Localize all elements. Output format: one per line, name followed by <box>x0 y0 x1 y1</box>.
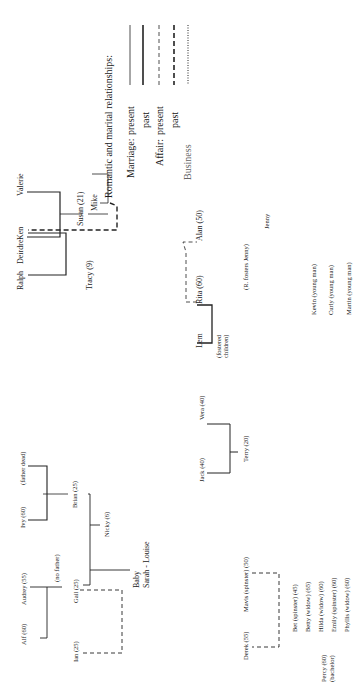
person-ken: Ken <box>17 227 25 240</box>
person-ivy: Ivy (60) <box>19 507 26 528</box>
person-brian: Brian (25) <box>71 481 78 508</box>
person-emily: Emily (spinster) (60) <box>330 577 337 632</box>
legend-marriage-group: Marriage: <box>126 139 136 178</box>
person-terry: Terry (20) <box>242 436 249 462</box>
person-sarah-louise: Sarah - Louise <box>143 541 151 588</box>
person-hilda: Hilda (widow) (60) <box>317 581 324 632</box>
person-curly: Curly (young man) <box>327 265 334 315</box>
note-bachelor: (bachelor) <box>328 655 335 682</box>
person-ralph: Ralph <box>17 271 25 290</box>
person-susan: Susan (21) <box>77 192 85 226</box>
person-valerie: Valerie <box>17 173 25 196</box>
person-betty: Betty (widow) (65) <box>304 582 311 632</box>
person-martin: Martin (young man) <box>345 262 352 315</box>
legend-affair-present: present <box>155 106 165 135</box>
person-alf: Alf (60) <box>20 624 27 645</box>
note-father-dead: (father dead) <box>19 452 26 485</box>
person-tracy: Tracy (9) <box>86 260 94 290</box>
person-ian: Ian (25) <box>72 641 79 662</box>
person-baby: Baby <box>133 571 141 588</box>
person-alan: Alan (50) <box>196 210 204 241</box>
person-mike: Mike <box>91 194 99 211</box>
person-percy: Percy (60) <box>320 655 327 682</box>
person-deirdre: Deirdre <box>17 240 25 264</box>
person-gail: Gail (25) <box>72 579 79 603</box>
person-bet: Bet (spinster) (45) <box>291 584 298 632</box>
legend-business: Business <box>183 144 193 180</box>
legend-marriage-present: present <box>126 106 136 135</box>
note-r-fosters-jenny: (R. fosters Jenny) <box>242 244 249 290</box>
legend-affair-past: past <box>170 112 180 128</box>
legend-marriage-past: past <box>141 112 151 128</box>
person-audrey: Audrey (55) <box>20 573 27 605</box>
person-lem: Lem <box>196 333 204 348</box>
person-derek: Derek (55) <box>242 632 249 660</box>
person-phyllis: Phyllis (widow) (60) <box>343 578 350 632</box>
legend-lines <box>130 25 188 85</box>
note-no-father: (no father) <box>53 554 60 582</box>
note-fostered-children: (fostered children) <box>215 328 229 358</box>
person-nicky: Nicky (6) <box>103 512 110 537</box>
person-kevin: Kevin (young man) <box>310 264 317 315</box>
person-vera: Vera (40) <box>198 396 205 420</box>
legend-title: Romantic and marital relationships: <box>104 55 114 198</box>
person-jenny: Jenny <box>263 214 270 229</box>
legend-affair-group: Affair: <box>155 139 165 166</box>
person-rita: Rita (60) <box>196 275 204 304</box>
person-jack: Jack (40) <box>198 458 205 482</box>
person-mavis: Mavis (spinster) (50) <box>242 557 249 612</box>
